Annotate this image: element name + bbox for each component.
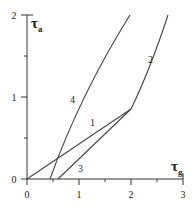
- curve-label-1: 1: [90, 117, 95, 128]
- x-axis-title: τg: [171, 158, 183, 177]
- x-tick-label-0: 0: [25, 189, 30, 200]
- chart: 0 1 2 3 0 1 2 τa τg 1 2 3 4: [0, 0, 195, 207]
- y-tick-label-1: 1: [12, 92, 17, 103]
- y-axis-title: τa: [31, 15, 43, 34]
- curve-label-3: 3: [78, 163, 83, 174]
- curve-label-2: 2: [148, 54, 153, 65]
- y-tick-label-0: 0: [12, 174, 17, 185]
- curve-4: [50, 15, 130, 179]
- curve-label-4: 4: [70, 94, 75, 105]
- y-tick-label-2: 2: [12, 10, 17, 21]
- x-tick-label-3: 3: [181, 189, 186, 200]
- x-tick-label-2: 2: [129, 189, 134, 200]
- x-tick-label-1: 1: [77, 189, 82, 200]
